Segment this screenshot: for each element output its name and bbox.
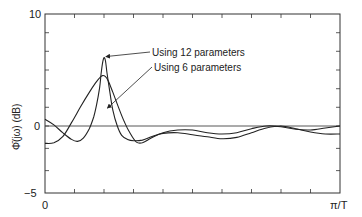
plot-frame — [45, 14, 340, 193]
series-6-parameters-line — [45, 76, 340, 144]
y-tick-label-minus5: −5 — [24, 187, 37, 199]
annotation-arrow-6-parameters — [107, 67, 152, 108]
y-axis-label: Φ̄(jω) (dB) — [11, 104, 22, 150]
plot-border — [45, 14, 340, 193]
annotations — [106, 52, 152, 108]
x-tick-label-pi-over-T: π/T — [330, 199, 348, 211]
y-tick-label-0: 0 — [34, 120, 40, 132]
legend-label-12-parameters: Using 12 parameters — [152, 47, 245, 58]
annotation-arrow-12-parameters — [106, 52, 150, 57]
y-tick-label-10: 10 — [29, 8, 41, 20]
x-tick-label-0: 0 — [42, 199, 48, 211]
frequency-response-chart: 10 0 −5 0 π/T Φ̄(jω) (dB) Using 12 param… — [0, 0, 362, 217]
legend-label-6-parameters: Using 6 parameters — [154, 62, 241, 73]
axis-ticks — [45, 14, 340, 193]
